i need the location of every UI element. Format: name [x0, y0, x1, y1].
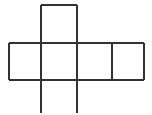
cube-net-diagram [0, 0, 152, 115]
cube-net-svg [0, 0, 152, 115]
